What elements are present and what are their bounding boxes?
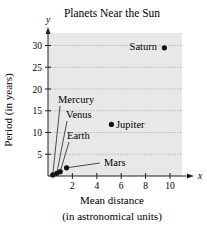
- y-tick-label: 10: [33, 128, 43, 138]
- x-tick-label: 10: [165, 181, 175, 191]
- x-axis-sublabel: (in astronomical units): [62, 210, 162, 223]
- label-venus: Venus: [66, 109, 92, 120]
- y-tick-label: 25: [33, 63, 43, 73]
- data-point-saturn: [162, 45, 167, 50]
- data-point-earth: [58, 169, 63, 174]
- x-tick-label: 2: [70, 181, 75, 191]
- y-axis-symbol: y: [45, 15, 51, 25]
- data-point-mars: [64, 165, 69, 170]
- y-tick-label: 15: [33, 106, 43, 116]
- y-tick-label: 30: [33, 41, 43, 51]
- label-saturn: Saturn: [130, 41, 158, 52]
- label-mars: Mars: [104, 157, 126, 168]
- x-axis-arrow-icon: [187, 174, 194, 179]
- y-axis-arrow-icon: [46, 27, 51, 34]
- chart: x y 246810 51015202530 Planets Near the …: [0, 0, 207, 231]
- label-mercury: Mercury: [58, 94, 95, 105]
- y-tick-label: 20: [33, 85, 43, 95]
- label-jupiter: Jupiter: [116, 119, 145, 130]
- data-point-jupiter: [109, 122, 114, 127]
- x-tick-label: 6: [119, 181, 124, 191]
- x-tick-label: 4: [94, 181, 99, 191]
- x-axis-symbol: x: [197, 171, 203, 181]
- label-earth: Earth: [67, 130, 90, 141]
- y-tick-label: 5: [37, 150, 42, 160]
- y-axis-label: Period (in years): [2, 73, 15, 147]
- x-axis-label: Mean distance: [80, 194, 144, 206]
- chart-title: Planets Near the Sun: [64, 7, 160, 19]
- x-tick-label: 8: [143, 181, 148, 191]
